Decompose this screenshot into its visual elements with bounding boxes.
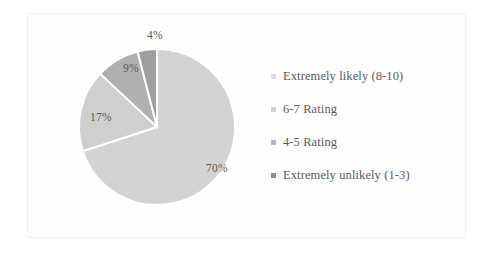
pie-chart-plot-area: 70% 17% 9% 4% Extremely likely (8-10) 6-… <box>28 14 465 237</box>
pie-chart-graphic <box>67 32 247 222</box>
legend-item-6-7-rating[interactable]: 6-7 Rating <box>271 97 456 121</box>
legend-item-label: 4-5 Rating <box>283 135 337 150</box>
pie-data-label-extremely-unlikely: 4% <box>147 29 163 41</box>
legend-swatch-icon <box>271 173 276 178</box>
pie-data-label-4-5-rating: 9% <box>123 62 139 74</box>
pie-data-label-6-7-rating: 17% <box>90 111 112 123</box>
legend-swatch-icon <box>271 74 276 79</box>
legend-item-extremely-unlikely[interactable]: Extremely unlikely (1-3) <box>271 163 456 187</box>
legend-item-extremely-likely[interactable]: Extremely likely (8-10) <box>271 64 456 88</box>
legend-swatch-icon <box>271 140 276 145</box>
pie-data-label-extremely-likely: 70% <box>206 162 228 174</box>
legend-item-label: Extremely likely (8-10) <box>283 69 403 84</box>
chart-frame: 70% 17% 9% 4% Extremely likely (8-10) 6-… <box>27 13 466 238</box>
legend-item-label: Extremely unlikely (1-3) <box>283 168 410 183</box>
legend-item-label: 6-7 Rating <box>283 102 337 117</box>
chart-legend: Extremely likely (8-10) 6-7 Rating 4-5 R… <box>271 64 456 196</box>
legend-item-4-5-rating[interactable]: 4-5 Rating <box>271 130 456 154</box>
legend-swatch-icon <box>271 107 276 112</box>
